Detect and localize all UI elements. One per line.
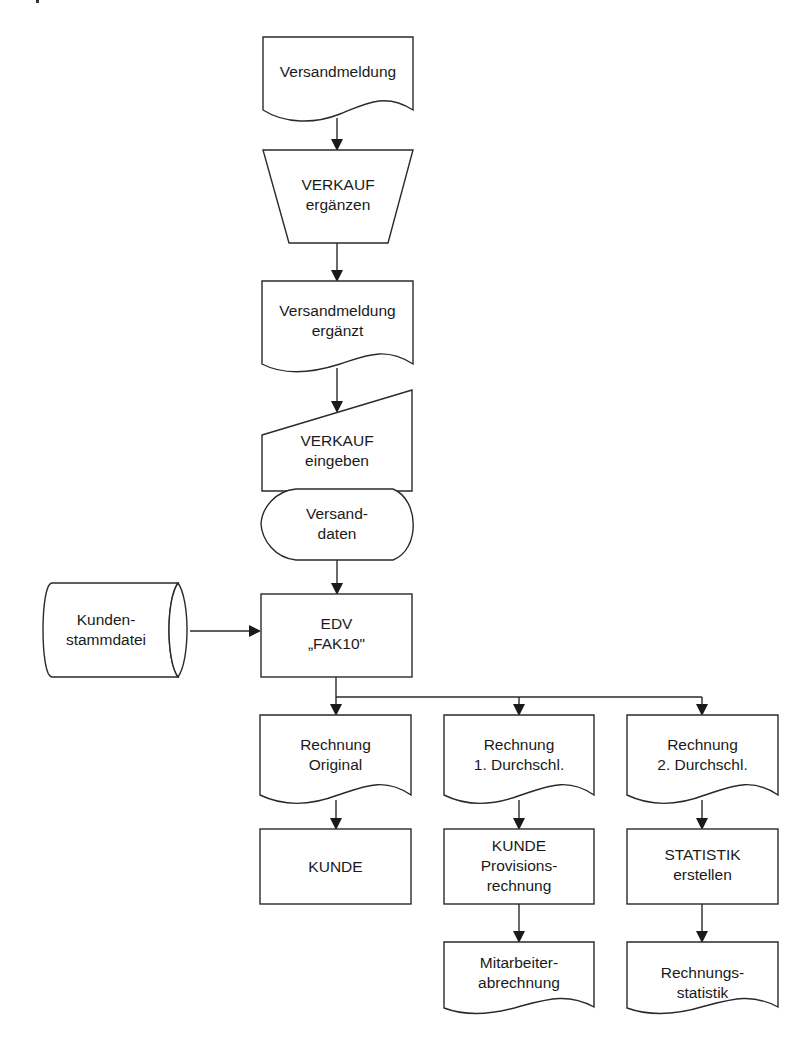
label-line: Rechnung	[300, 735, 371, 755]
node-versandmeldung-label: Versandmeldung	[263, 52, 413, 92]
label-line: Rechnung	[484, 735, 555, 755]
label-line: KUNDE	[492, 836, 546, 856]
node-kundenstammdatei-label: Kunden- stammdatei	[44, 606, 168, 654]
label-line: Mitarbeiter-	[480, 953, 558, 973]
label-line: Versandmeldung	[279, 301, 395, 321]
label-line: statistik	[677, 983, 729, 1003]
label-line: STATISTIK	[664, 845, 740, 865]
label-line: rechnung	[487, 876, 552, 896]
node-verkauf-ergaenzen-label: VERKAUF ergänzen	[263, 170, 413, 220]
label-line: eingeben	[305, 451, 369, 471]
label-line: Rechnungs-	[661, 963, 745, 983]
node-mitarbeiterabrechnung-label: Mitarbeiter- abrechnung	[444, 950, 594, 996]
label-line: 1. Durchschl.	[474, 755, 564, 775]
label-line: VERKAUF	[301, 175, 374, 195]
label-line: ergänzt	[312, 321, 364, 341]
label-line: „FAK10"	[308, 634, 365, 654]
node-versanddaten-label: Versand- daten	[262, 500, 412, 548]
node-kundenstammdatei-ellipse	[169, 583, 187, 677]
label-line: Rechnung	[667, 735, 738, 755]
node-kunde-provision-label: KUNDE Provisions- rechnung	[444, 832, 594, 900]
label-line: EDV	[321, 614, 353, 634]
label-line: Versandmeldung	[280, 62, 396, 82]
label-line: VERKAUF	[300, 431, 373, 451]
label-line: ergänzen	[306, 195, 371, 215]
node-rechnung-2-label: Rechnung 2. Durchschl.	[627, 732, 778, 778]
label-line: stammdatei	[66, 630, 146, 650]
node-edv-fak10-label: EDV „FAK10"	[261, 610, 412, 658]
node-statistik-erstellen-label: STATISTIK erstellen	[627, 840, 778, 890]
label-line: Original	[309, 755, 362, 775]
node-rechnung-1-label: Rechnung 1. Durchschl.	[444, 732, 594, 778]
label-line: 2. Durchschl.	[657, 755, 747, 775]
node-verkauf-eingeben-label: VERKAUF eingeben	[262, 428, 412, 474]
label-line: Versand-	[306, 504, 368, 524]
label-line: KUNDE	[308, 857, 362, 877]
label-line: erstellen	[673, 865, 732, 885]
node-kunde-label: KUNDE	[260, 829, 411, 904]
label-line: Kunden-	[77, 610, 136, 630]
label-line: daten	[318, 524, 357, 544]
label-line: abrechnung	[478, 973, 560, 993]
node-rechnung-original-label: Rechnung Original	[260, 732, 411, 778]
node-rechnungsstatistik-label: Rechnungs- statistik	[627, 960, 778, 1006]
node-versandmeldung-ergaenzt-label: Versandmeldung ergänzt	[262, 298, 413, 344]
label-line: Provisions-	[481, 856, 558, 876]
